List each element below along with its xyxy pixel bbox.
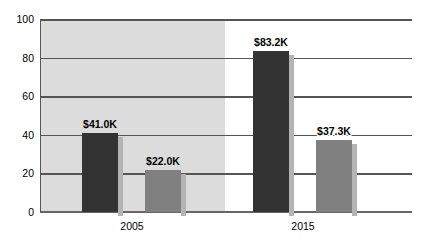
y-tick-60: 60: [0, 91, 34, 102]
y-tick-40: 40: [0, 130, 34, 141]
y-tick-80: 80: [0, 53, 34, 64]
bar-shadow: [118, 137, 123, 216]
highlight-band-2005: [40, 19, 225, 212]
bar-2015-gray[interactable]: $37.3K: [316, 140, 352, 212]
bar-body: [145, 170, 181, 212]
bar-2015-dark[interactable]: $83.2K: [253, 51, 289, 212]
y-tick-20: 20: [0, 168, 34, 179]
y-axis: 100 80 60 40 20 0: [0, 0, 36, 243]
bar-shadow: [289, 55, 294, 216]
gridline-80: [40, 58, 412, 60]
plot-area: $41.0K $22.0K $83.2K $37.3K: [40, 19, 412, 212]
x-tick-2005: 2005: [92, 221, 172, 232]
bar-body: [82, 133, 118, 212]
bar-body: [316, 140, 352, 212]
bar-shadow: [352, 144, 357, 216]
bar-chart: 100 80 60 40 20 0 $41.0K $22.0K: [0, 0, 429, 243]
bar-value-label: $37.3K: [317, 126, 351, 137]
bar-value-label: $41.0K: [83, 119, 117, 130]
bar-2005-gray[interactable]: $22.0K: [145, 170, 181, 212]
bar-value-label: $83.2K: [254, 37, 288, 48]
y-tick-100: 100: [0, 14, 34, 25]
bar-value-label: $22.0K: [146, 156, 180, 167]
bar-shadow: [181, 174, 186, 216]
bar-2005-dark[interactable]: $41.0K: [82, 133, 118, 212]
x-tick-2015: 2015: [263, 221, 343, 232]
bar-body: [253, 51, 289, 212]
gridline-60: [40, 96, 412, 98]
gridline-100: [40, 19, 412, 21]
y-tick-0: 0: [0, 207, 34, 218]
